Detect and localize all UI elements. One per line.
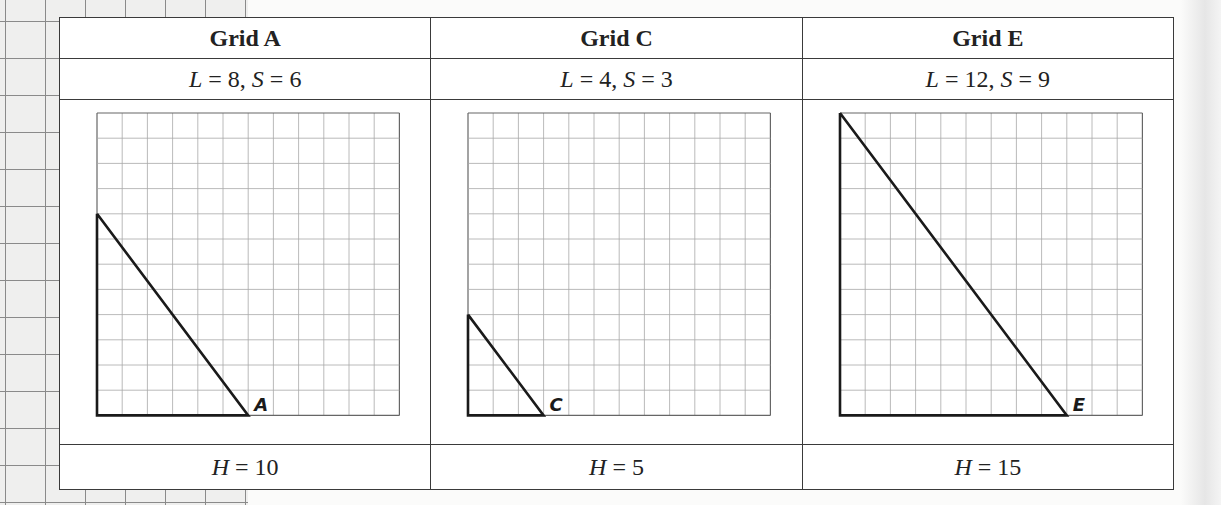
- equals-sign: =: [574, 66, 600, 92]
- s-value: 9: [1038, 66, 1050, 92]
- l-value: 12: [965, 66, 989, 92]
- params-a: L = 8, S = 6: [60, 59, 431, 100]
- params-e: L = 12, S = 9: [802, 59, 1173, 100]
- l-symbol: L: [560, 66, 573, 92]
- equals-sign: =: [202, 66, 228, 92]
- grid-figure-a: A: [75, 107, 415, 437]
- equals-sign: =: [1013, 66, 1039, 92]
- grid-figure-e: E: [818, 107, 1158, 437]
- l-value: 8: [228, 66, 240, 92]
- h-symbol: H: [212, 454, 229, 480]
- equals-sign: =: [606, 454, 632, 480]
- s-symbol: S: [252, 66, 264, 92]
- s-symbol: S: [1001, 66, 1013, 92]
- vertex-label: E: [1073, 394, 1086, 415]
- l-symbol: L: [926, 66, 939, 92]
- hypotenuse-e: H = 15: [802, 445, 1173, 490]
- h-value: 15: [997, 454, 1021, 480]
- s-value: 6: [289, 66, 301, 92]
- figure-cell-c: C: [431, 100, 802, 445]
- vertex-label: A: [252, 394, 268, 415]
- s-value: 3: [661, 66, 673, 92]
- equals-sign: =: [264, 66, 290, 92]
- l-symbol: L: [189, 66, 202, 92]
- panel-title-c: Grid C: [431, 18, 802, 59]
- params-c: L = 4, S = 3: [431, 59, 802, 100]
- comma: ,: [989, 66, 1001, 92]
- h-value: 5: [632, 454, 644, 480]
- hypotenuse-a: H = 10: [60, 445, 431, 490]
- vertex-label: C: [550, 394, 564, 415]
- hypotenuse-c: H = 5: [431, 445, 802, 490]
- equals-sign: =: [939, 66, 965, 92]
- panel-title-a: Grid A: [60, 18, 431, 59]
- h-symbol: H: [589, 454, 606, 480]
- l-value: 4: [599, 66, 611, 92]
- equals-sign: =: [972, 454, 998, 480]
- equals-sign: =: [229, 454, 255, 480]
- comma: ,: [240, 66, 252, 92]
- h-value: 10: [255, 454, 279, 480]
- panel-title-e: Grid E: [802, 18, 1173, 59]
- equals-sign: =: [635, 66, 661, 92]
- grid-figure-c: C: [446, 107, 786, 437]
- comma: ,: [611, 66, 623, 92]
- params-row: L = 8, S = 6 L = 4, S = 3 L = 12, S = 9: [60, 59, 1174, 100]
- page-edge-shadow: [1181, 0, 1221, 505]
- h-symbol: H: [954, 454, 971, 480]
- figure-cell-e: E: [802, 100, 1173, 445]
- hypotenuse-row: H = 10 H = 5 H = 15: [60, 445, 1174, 490]
- figure-cell-a: A: [60, 100, 431, 445]
- s-symbol: S: [623, 66, 635, 92]
- header-row: Grid A Grid C Grid E: [60, 18, 1174, 59]
- grid-comparison-table: Grid A Grid C Grid E L = 8, S = 6 L = 4,…: [59, 17, 1174, 490]
- figure-row: A C E: [60, 100, 1174, 445]
